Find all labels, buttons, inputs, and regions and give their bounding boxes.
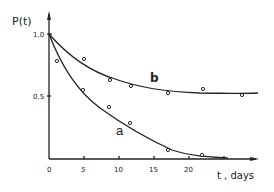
x-tick-label-20: 20 <box>184 166 193 174</box>
x-tick-label-0: 0 <box>47 166 51 174</box>
curve-a-line <box>49 34 228 158</box>
decay-chart: P(t) 1,0 0,5 0 5 10 15 20 t , days a b <box>0 0 274 192</box>
axes <box>47 11 259 161</box>
x-tick-label-5: 5 <box>81 166 86 174</box>
y-axis-label: P(t) <box>12 15 32 28</box>
x-axis-label: t , days <box>217 170 254 181</box>
x-tick-label-15: 15 <box>149 166 158 174</box>
series-a-points <box>55 59 203 156</box>
y-tick-label-1: 1,0 <box>33 31 44 39</box>
y-tick-label-05: 0,5 <box>33 93 44 101</box>
x-axis-arrow-icon <box>250 157 259 161</box>
curve-a-label: a <box>116 123 124 138</box>
curve-b-label: b <box>150 71 159 85</box>
x-tick-label-10: 10 <box>114 166 123 174</box>
y-axis-arrow-icon <box>47 11 51 20</box>
